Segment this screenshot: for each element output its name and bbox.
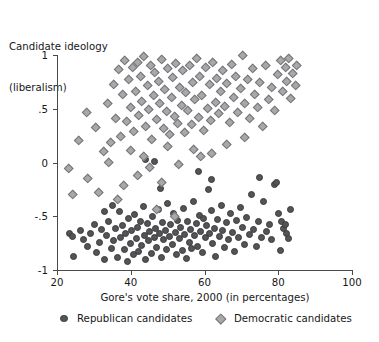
data-point-republican xyxy=(216,233,223,240)
x-tick-mark xyxy=(278,271,279,275)
data-point-republican xyxy=(243,214,250,221)
data-point-republican xyxy=(273,179,280,186)
data-point-democratic xyxy=(82,173,92,183)
data-point-republican xyxy=(233,217,240,224)
y-tick-label: -1 xyxy=(38,265,48,276)
legend-label-democratic: Democratic candidates xyxy=(234,313,352,324)
data-point-republican xyxy=(144,220,151,227)
data-point-republican xyxy=(70,253,77,260)
data-point-democratic xyxy=(135,71,145,81)
data-point-republican xyxy=(282,221,289,228)
data-point-republican xyxy=(248,191,255,198)
data-point-republican xyxy=(183,255,190,262)
data-point-democratic xyxy=(129,126,139,136)
data-point-republican xyxy=(164,200,171,207)
data-point-republican xyxy=(255,218,262,225)
data-point-republican xyxy=(203,222,210,229)
data-point-republican xyxy=(69,233,76,240)
x-tick-mark xyxy=(57,271,58,275)
cropped-text-fragment xyxy=(150,0,210,3)
data-point-republican xyxy=(212,253,219,260)
data-point-democratic xyxy=(137,96,147,106)
data-point-democratic xyxy=(179,127,189,137)
data-point-republican xyxy=(205,186,212,193)
data-point-republican xyxy=(211,225,218,232)
data-point-republican xyxy=(225,236,232,243)
chart-legend: Republican candidates Democratic candida… xyxy=(0,310,379,332)
data-point-democratic xyxy=(98,147,108,157)
data-point-republican xyxy=(151,158,158,165)
data-point-democratic xyxy=(186,120,196,130)
data-point-democratic xyxy=(228,93,238,103)
data-point-republican xyxy=(77,227,84,234)
plot-area xyxy=(57,55,352,270)
data-point-democratic xyxy=(159,84,169,94)
x-tick-mark xyxy=(205,271,206,275)
legend-item-democratic: Democratic candidates xyxy=(215,313,352,324)
data-point-republican xyxy=(209,240,216,247)
data-point-democratic xyxy=(123,75,133,85)
data-point-republican xyxy=(177,224,184,231)
data-point-democratic xyxy=(147,135,157,145)
data-point-republican xyxy=(221,244,228,251)
data-point-republican xyxy=(208,207,215,214)
data-point-republican xyxy=(138,242,145,249)
data-point-republican xyxy=(256,174,263,181)
data-point-democratic xyxy=(144,105,154,115)
data-point-democratic xyxy=(183,106,193,116)
data-point-democratic xyxy=(94,187,104,197)
data-point-democratic xyxy=(67,190,77,200)
data-point-democratic xyxy=(266,82,276,92)
data-point-republican xyxy=(158,254,165,261)
data-point-democratic xyxy=(290,81,300,91)
data-point-republican xyxy=(190,198,197,205)
data-point-democratic xyxy=(166,93,176,103)
data-point-democratic xyxy=(130,86,140,96)
data-point-democratic xyxy=(106,138,116,148)
data-point-democratic xyxy=(168,72,178,82)
data-point-republican xyxy=(184,218,191,225)
data-point-democratic xyxy=(245,113,255,123)
data-point-democratic xyxy=(224,118,234,128)
data-point-republican xyxy=(137,218,144,225)
data-point-democratic xyxy=(155,98,165,108)
y-tick-label: 1 xyxy=(42,50,48,61)
data-point-democratic xyxy=(111,113,121,123)
data-point-republican xyxy=(193,220,200,227)
data-point-democratic xyxy=(202,104,212,114)
data-point-democratic xyxy=(218,66,228,76)
data-point-republican xyxy=(121,246,128,253)
data-point-republican xyxy=(96,239,103,246)
data-point-republican xyxy=(93,249,100,256)
data-point-republican xyxy=(101,208,108,215)
data-point-republican xyxy=(108,245,115,252)
data-point-republican xyxy=(110,237,117,244)
x-tick-label: 100 xyxy=(342,277,361,288)
data-point-republican xyxy=(84,243,91,250)
data-point-democratic xyxy=(255,78,265,88)
data-point-republican xyxy=(101,256,108,263)
x-tick-label: 20 xyxy=(51,277,64,288)
data-point-democratic xyxy=(199,125,209,135)
data-point-republican xyxy=(277,247,284,254)
data-point-republican xyxy=(159,219,166,226)
data-point-republican xyxy=(199,249,206,256)
data-point-democratic xyxy=(125,102,135,112)
data-point-republican xyxy=(142,256,149,263)
data-point-republican xyxy=(266,221,273,228)
legend-item-republican: Republican candidates xyxy=(58,313,192,324)
data-point-republican xyxy=(180,205,187,212)
data-point-democratic xyxy=(157,54,167,64)
data-point-democratic xyxy=(108,80,118,90)
data-point-democratic xyxy=(113,65,123,75)
data-point-democratic xyxy=(152,114,162,124)
data-point-republican xyxy=(109,202,116,209)
data-point-democratic xyxy=(258,122,268,132)
data-point-republican xyxy=(237,204,244,211)
legend-label-republican: Republican candidates xyxy=(77,313,192,324)
data-point-democratic xyxy=(181,87,191,97)
data-point-democratic xyxy=(103,157,113,167)
data-point-democratic xyxy=(173,159,183,169)
data-point-republican xyxy=(167,221,174,228)
data-point-democratic xyxy=(196,152,206,162)
